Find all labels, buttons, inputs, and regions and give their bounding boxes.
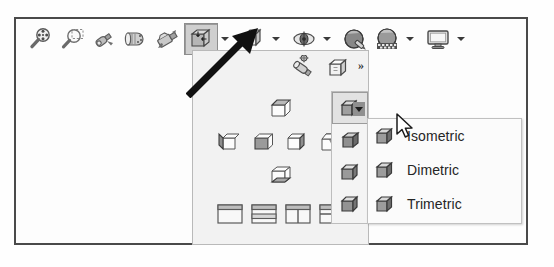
flyout-header: » <box>193 53 368 83</box>
view-bottom-icon <box>266 163 296 189</box>
cube-sw-isometric-icon <box>338 129 362 152</box>
menu-item-label: Dimetric <box>407 162 459 178</box>
view-top-icon <box>266 95 296 121</box>
menu-item-dimetric[interactable]: Dimetric <box>368 153 521 187</box>
view-right-button[interactable] <box>281 127 315 157</box>
viewport-vertical-button[interactable] <box>281 199 315 229</box>
cube-nw-isometric-icon <box>338 193 362 216</box>
render-icon <box>373 27 401 52</box>
view-bottom-button[interactable] <box>264 161 298 191</box>
cube-icon <box>373 124 398 148</box>
ne-isometric-button[interactable] <box>332 156 368 188</box>
menu-item-label: Trimetric <box>407 196 462 212</box>
viewport-single-button[interactable] <box>213 199 247 229</box>
named-views-button[interactable] <box>152 24 184 54</box>
display-icon <box>424 27 452 51</box>
view-right-icon <box>283 129 313 155</box>
viewport-single-icon <box>215 202 245 226</box>
flyout-overflow-chevron[interactable]: » <box>358 59 364 77</box>
se-isometric-dropdown-arrow[interactable] <box>353 102 365 116</box>
screenshot-canvas: » <box>0 0 554 267</box>
named-view-tool-icon[interactable] <box>290 55 318 81</box>
display-button[interactable] <box>422 24 454 54</box>
view-top-button[interactable] <box>264 93 298 123</box>
orbit-icon <box>123 27 149 51</box>
zoom-window-button[interactable] <box>56 24 88 54</box>
display-dropdown-arrow[interactable] <box>454 24 467 54</box>
view-front-icon <box>249 129 279 155</box>
orbit-button[interactable] <box>120 24 152 54</box>
viewport-horizontal-icon <box>249 202 279 226</box>
camera-icon <box>291 27 317 51</box>
view-manager-cube-icon[interactable] <box>324 55 352 81</box>
zoom-window-icon <box>59 27 85 51</box>
viewport-horizontal-button[interactable] <box>247 199 281 229</box>
pan-icon <box>91 27 117 51</box>
zoom-realtime-button[interactable] <box>24 24 56 54</box>
projection-type-menu: Isometric Dimetric Trimetric <box>367 118 522 224</box>
menu-item-label: Isometric <box>407 128 465 144</box>
se-isometric-split-button[interactable] <box>332 92 368 124</box>
cube-ne-isometric-icon <box>338 161 362 184</box>
cube-icon <box>373 192 398 216</box>
view-left-button[interactable] <box>213 127 247 157</box>
view-left-icon <box>215 129 245 155</box>
view-front-button[interactable] <box>247 127 281 157</box>
nw-isometric-button[interactable] <box>332 188 368 220</box>
menu-item-isometric[interactable]: Isometric <box>368 119 521 153</box>
menu-item-trimetric[interactable]: Trimetric <box>368 187 521 221</box>
view-orientation-icon <box>189 28 213 51</box>
render-button[interactable] <box>371 24 403 54</box>
named-views-icon <box>155 27 181 51</box>
render-dropdown-arrow[interactable] <box>403 24 416 54</box>
cube-icon <box>373 158 398 182</box>
isometric-views-group <box>331 91 369 224</box>
isometric-cube-icon <box>240 27 266 51</box>
sw-isometric-button[interactable] <box>332 124 368 156</box>
viewport-vertical-icon <box>283 202 313 226</box>
zoom-realtime-icon <box>27 27 53 51</box>
visual-style-icon <box>341 27 369 52</box>
pan-button[interactable] <box>88 24 120 54</box>
